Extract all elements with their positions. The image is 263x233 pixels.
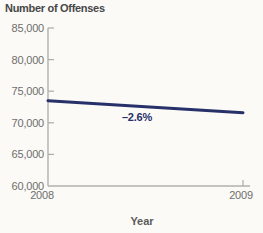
y-tick-label-65000: 65,000 <box>2 148 44 160</box>
y-tick-label-70000: 70,000 <box>2 117 44 129</box>
x-axis-title: Year <box>118 215 166 227</box>
x-tick-label-2008: 2008 <box>26 189 58 202</box>
y-tick-label-80000: 80,000 <box>2 54 44 66</box>
y-tick-label-85000: 85,000 <box>2 22 44 34</box>
y-tick-label-75000: 75,000 <box>2 85 44 97</box>
percent-change-label: –2.6% <box>111 111 163 123</box>
x-tick-label-2009: 2009 <box>225 189 257 202</box>
offenses-trend-chart: Number of Offenses 85,000 80,000 75,000 … <box>0 0 263 233</box>
